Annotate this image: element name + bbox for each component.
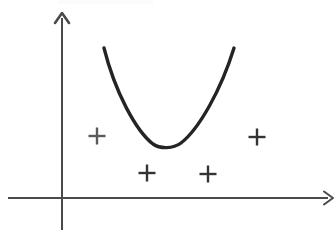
marker-right (249, 129, 266, 146)
marker-group (89, 128, 266, 183)
marker-left (89, 128, 106, 145)
marker-bottom-left (139, 165, 156, 182)
marker-bottom-right (200, 166, 217, 183)
scan-smudge (58, 0, 153, 4)
parabola-curve (104, 48, 234, 148)
figure-canvas (0, 0, 335, 237)
parabola-scatter-plot (0, 0, 335, 237)
